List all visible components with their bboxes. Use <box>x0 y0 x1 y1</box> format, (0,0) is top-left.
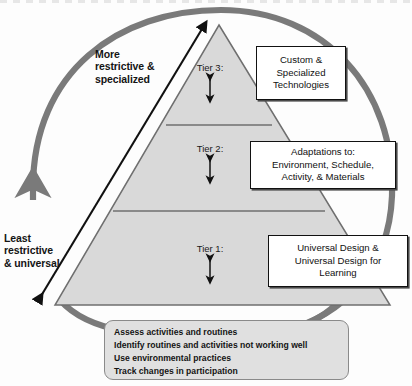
bottom-process-box: Assess activities and routines Identify … <box>104 320 349 380</box>
callout-box-tier1: Universal Design & Universal Design for … <box>268 235 408 287</box>
label-more-restrictive: More restrictive & specialized <box>95 48 173 85</box>
label-least-restrictive: Least restrictive & universal <box>4 232 84 269</box>
tier-label-tier3: Tier 3: <box>182 62 238 73</box>
bottom-process-line: Identify routines and activities not wor… <box>114 339 339 352</box>
tier-label-tier1: Tier 1: <box>182 243 238 254</box>
tier-label-tier2: Tier 2: <box>182 143 238 154</box>
bottom-process-line: Track changes in participation <box>114 365 339 378</box>
diagram-canvas: More restrictive & specialized Least res… <box>0 0 412 386</box>
callout-box-tier2: Adaptations to: Environment, Schedule, A… <box>250 141 396 189</box>
bottom-process-line: Use environmental practices <box>114 352 339 365</box>
bottom-process-line: Assess activities and routines <box>114 326 339 339</box>
callout-box-tier3: Custom & Specialized Technologies <box>256 46 346 100</box>
